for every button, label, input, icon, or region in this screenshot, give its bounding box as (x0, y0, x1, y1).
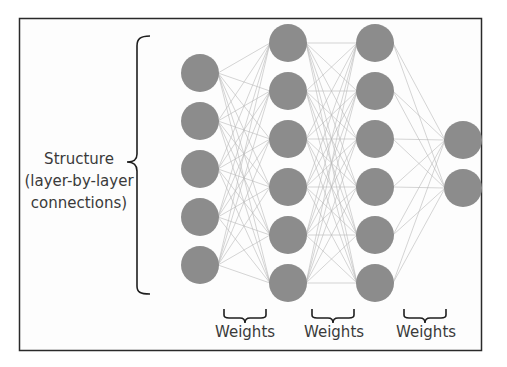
neuron-node-input-1 (181, 54, 219, 92)
weights-label-1: Weights (215, 323, 275, 341)
neuron-node-hidden-1-5 (269, 216, 307, 254)
neuron-node-hidden-2-4 (356, 168, 394, 206)
neuron-node-input-2 (181, 102, 219, 140)
neuron-node-input-3 (181, 150, 219, 188)
neuron-node-output-2 (444, 169, 482, 207)
neuron-node-hidden-1-3 (269, 120, 307, 158)
structure-label: Structure (layer-by-layer connections) (20, 148, 138, 214)
neuron-node-input-5 (181, 246, 219, 284)
neuron-node-hidden-1-1 (269, 24, 307, 62)
neuron-node-hidden-2-6 (356, 264, 394, 302)
structure-label-line3: connections) (20, 192, 138, 214)
weights-label-3: Weights (396, 323, 456, 341)
neuron-node-output-1 (444, 121, 482, 159)
neuron-node-hidden-2-2 (356, 72, 394, 110)
neuron-node-hidden-1-2 (269, 72, 307, 110)
structure-label-line2: (layer-by-layer (20, 170, 138, 192)
neuron-node-hidden-1-4 (269, 168, 307, 206)
neuron-node-hidden-2-3 (356, 120, 394, 158)
weights-label-2: Weights (304, 323, 364, 341)
structure-label-line1: Structure (20, 148, 138, 170)
neuron-node-hidden-1-6 (269, 264, 307, 302)
neuron-node-input-4 (181, 198, 219, 236)
neuron-node-hidden-2-5 (356, 216, 394, 254)
neuron-node-hidden-2-1 (356, 24, 394, 62)
